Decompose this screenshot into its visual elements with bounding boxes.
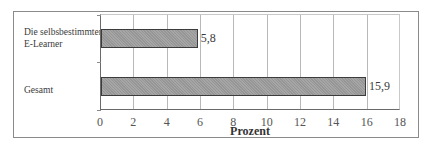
plot-area (100, 14, 400, 110)
x-tick-label: 16 (361, 115, 373, 130)
x-tick-label: 18 (394, 115, 406, 130)
category-label-line: Gesamt (24, 84, 53, 96)
y-axis-tick (97, 110, 101, 111)
bar-0 (101, 29, 198, 48)
category-label-line: E-Learner (24, 38, 103, 50)
x-tick-label: 2 (130, 115, 136, 130)
x-tick-label: 6 (197, 115, 203, 130)
category-label-0: Die selbsbestimmten E-Learner (24, 26, 103, 50)
value-label-0: 5,8 (201, 31, 216, 46)
x-tick-label: 4 (164, 115, 170, 130)
y-axis-tick (97, 15, 101, 16)
x-tick-label: 14 (327, 115, 339, 130)
x-axis-label: Prozent (230, 124, 270, 139)
bar-1 (101, 77, 366, 96)
category-label-line: Die selbsbestimmten (24, 26, 103, 38)
x-tick-label: 0 (97, 115, 103, 130)
y-axis-tick (97, 62, 101, 63)
gridline (367, 15, 368, 109)
x-tick-label: 12 (294, 115, 306, 130)
category-label-1: Gesamt (24, 84, 53, 96)
value-label-1: 15,9 (369, 79, 390, 94)
